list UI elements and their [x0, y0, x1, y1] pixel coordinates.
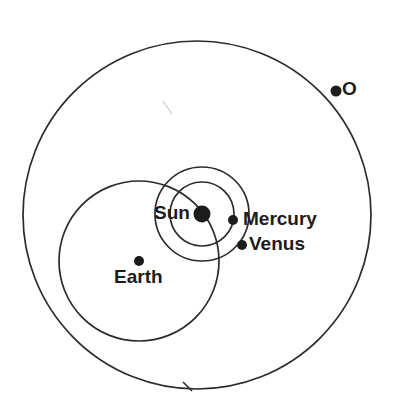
earth-label: Earth [114, 267, 163, 286]
outer-body-label: O [342, 79, 357, 98]
body-markers [134, 86, 342, 267]
outer-body-dot [331, 86, 342, 97]
pencil-smudge [163, 101, 172, 114]
sun-label: Sun [154, 203, 190, 222]
earth-dot [134, 256, 144, 266]
orbit-direction-tick [183, 382, 192, 391]
orbit-diagram: Sun Mercury Venus Earth O [0, 0, 408, 409]
venus-label: Venus [249, 234, 305, 253]
mercury-dot [228, 215, 238, 225]
sun-dot [194, 206, 211, 223]
orbit-diagram-canvas [0, 0, 408, 409]
venus-dot [237, 240, 247, 250]
mercury-label: Mercury [243, 209, 317, 228]
